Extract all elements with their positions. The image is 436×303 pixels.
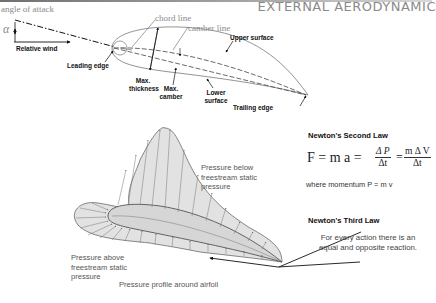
camber-line-label: camber line [188,23,230,33]
pressure-below-label: Pressure below freestream static pressur… [201,163,257,192]
angle-of-attack-label: angle of attack [1,4,54,14]
leading-edge-label: Leading edge [67,62,109,70]
formula-equals: = [396,150,403,165]
chord-line-label: chord line [155,13,191,23]
pressure-above-label: Pressure above freestream static pressur… [71,253,127,282]
trailing-edge-label: Trailing edge [233,104,273,112]
lower-surface-label: Lower surface [203,89,229,105]
alpha-symbol: α [3,22,9,37]
pressure-profile [74,128,282,262]
fraction-dp-dt: Δ P Δt [375,146,391,169]
newton-third-law-title: Newton's Third Law [308,216,379,225]
upper-surface-label: Upper surface [230,34,274,42]
relative-wind-label: Relative wind [16,45,58,53]
pressure-profile-caption: Pressure profile around airfoil [119,280,218,290]
fraction-mdv-dt: m Δ V Δt [404,146,431,169]
momentum-note: where momentum P = m v [306,180,392,189]
max-camber-label: Max. camber [158,85,184,101]
formula-lhs: F = m a = [307,150,362,166]
newton-third-law-text: For every action there is an equal and o… [309,233,427,253]
max-thickness-label: Max. thickness [129,77,157,93]
newton-second-law-title: Newton's Second Law [308,131,388,140]
